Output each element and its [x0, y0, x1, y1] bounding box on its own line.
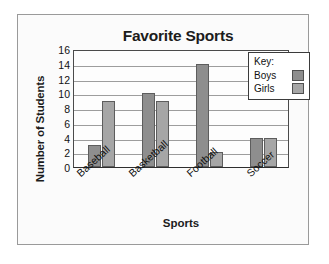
- legend-swatch-girls: [292, 83, 304, 94]
- y-axis-title: Number of Students: [34, 59, 46, 199]
- y-axis-tick-labels: 0246810121416: [48, 50, 70, 168]
- y-tick-label: 4: [64, 133, 70, 144]
- chart-legend: Key: BoysGirls: [248, 52, 310, 100]
- legend-entry-boys: Boys: [254, 70, 304, 82]
- legend-entry-girls: Girls: [254, 83, 304, 95]
- y-tick-label: 8: [64, 104, 70, 115]
- y-tick-label: 10: [58, 89, 70, 100]
- y-tick-label: 0: [64, 163, 70, 174]
- chart-title: Favorite Sports: [18, 27, 310, 45]
- y-tick-label: 14: [58, 60, 70, 71]
- legend-swatch-boys: [292, 70, 304, 81]
- legend-entries: BoysGirls: [254, 70, 304, 95]
- legend-entry-label: Boys: [254, 70, 276, 82]
- legend-entry-label: Girls: [254, 83, 275, 95]
- legend-title: Key:: [254, 56, 304, 68]
- y-tick-label: 2: [64, 148, 70, 159]
- chart-figure-frame: Favorite Sports Number of Students 02468…: [17, 14, 309, 245]
- y-tick-label: 16: [58, 45, 70, 56]
- y-tick-label: 6: [64, 119, 70, 130]
- y-tick-label: 12: [58, 74, 70, 85]
- x-axis-tick-labels: BaseballBasketballFootballSoccer: [73, 170, 289, 218]
- x-axis-title: Sports: [73, 217, 289, 229]
